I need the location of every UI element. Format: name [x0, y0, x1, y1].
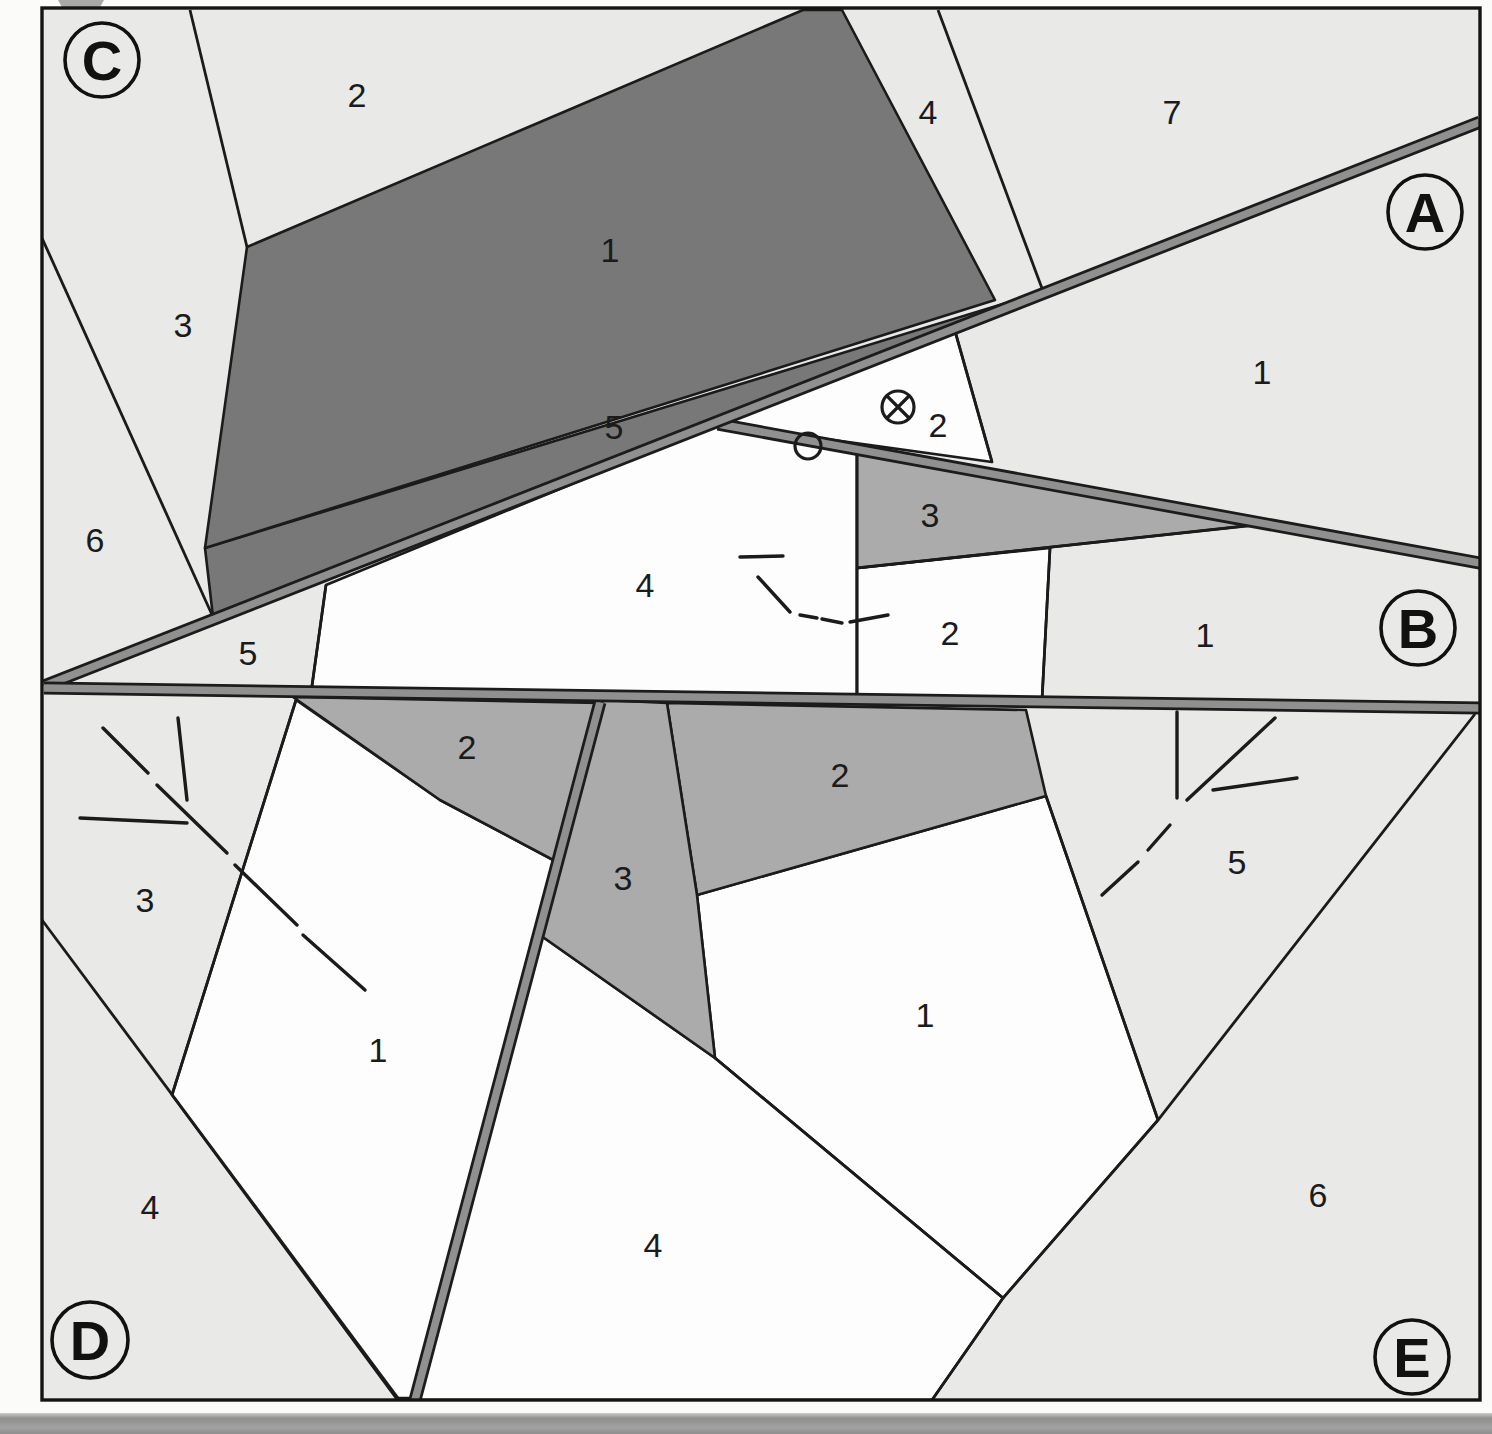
geologic-map-figure: 2 4 7 1 3 5 6 1 2 3 4 2 1 5 2 2 5 3 3 1 … — [0, 0, 1492, 1434]
unit-label-E-5: 5 — [1228, 843, 1247, 881]
unit-label-E-2: 2 — [831, 756, 850, 794]
unit-label-E-3: 3 — [614, 859, 633, 897]
unit-label-C-1: 1 — [601, 231, 620, 269]
badge-letter-E: E — [1393, 1326, 1430, 1389]
unit-label-C-6: 6 — [86, 521, 105, 559]
map-area — [42, 8, 1480, 1400]
badge-letter-D: D — [70, 1309, 110, 1372]
unit-label-D-2: 2 — [458, 728, 477, 766]
badge-letter-C: C — [82, 29, 122, 92]
crossed-circle-icon — [882, 391, 914, 423]
unit-label-C-2: 2 — [348, 76, 367, 114]
unit-label-C-5: 5 — [605, 408, 624, 446]
unit-label-A-1: 1 — [1253, 353, 1272, 391]
unit-label-C-7: 7 — [1163, 93, 1182, 131]
unit-label-A-2: 2 — [929, 406, 948, 444]
unit-label-D-3: 3 — [136, 881, 155, 919]
page-edge-strip — [0, 1413, 1492, 1434]
unit-label-E-4: 4 — [644, 1226, 663, 1264]
unit-label-B-5: 5 — [239, 634, 258, 672]
unit-label-C-3: 3 — [174, 306, 193, 344]
badge-letter-B: B — [1398, 597, 1438, 660]
unit-label-D-4: 4 — [141, 1188, 160, 1226]
unit-label-B-2: 2 — [941, 614, 960, 652]
scanned-page: 2 4 7 1 3 5 6 1 2 3 4 2 1 5 2 2 5 3 3 1 … — [0, 0, 1492, 1434]
unit-label-E-1: 1 — [916, 996, 935, 1034]
unit-label-E-6: 6 — [1309, 1176, 1328, 1214]
unit-label-C-4: 4 — [919, 93, 938, 131]
unit-label-B-4: 4 — [636, 566, 655, 604]
badge-letter-A: A — [1405, 181, 1445, 244]
unit-label-B-3: 3 — [921, 496, 940, 534]
unit-label-B-1: 1 — [1196, 616, 1215, 654]
unit-label-D-1: 1 — [369, 1031, 388, 1069]
